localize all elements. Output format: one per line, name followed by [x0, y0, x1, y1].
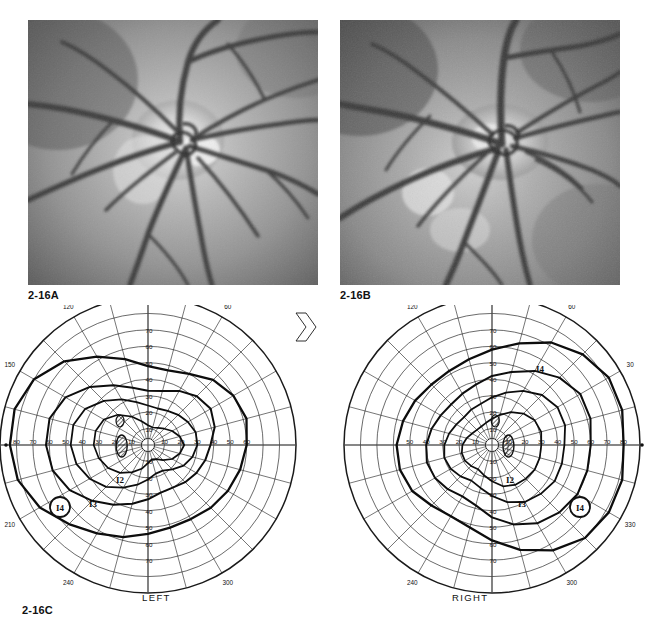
goldmann-perimetry-chart: 7060504030201010203040506070807060504030… — [0, 305, 648, 601]
svg-text:10: 10 — [128, 438, 135, 445]
svg-text:240: 240 — [63, 579, 74, 586]
svg-text:120: 120 — [407, 305, 418, 310]
svg-text:I4: I4 — [576, 503, 585, 513]
svg-text:70: 70 — [146, 557, 153, 564]
svg-text:50: 50 — [406, 438, 413, 445]
svg-text:40: 40 — [146, 508, 153, 515]
svg-text:240: 240 — [407, 579, 418, 586]
svg-text:10: 10 — [490, 458, 497, 465]
svg-text:70: 70 — [146, 327, 153, 334]
svg-text:210: 210 — [5, 521, 16, 528]
figure-label-a: 2-16A — [28, 289, 59, 301]
svg-text:40: 40 — [79, 438, 86, 445]
svg-text:I3: I3 — [89, 499, 98, 509]
svg-text:60: 60 — [568, 305, 576, 310]
svg-text:40: 40 — [554, 438, 561, 445]
svg-text:I2: I2 — [116, 475, 125, 485]
perimetry-left-eye: 7060504030201010203040506070807060504030… — [0, 305, 296, 601]
svg-text:20: 20 — [456, 438, 463, 445]
svg-text:300: 300 — [566, 579, 577, 586]
svg-text:20: 20 — [146, 409, 153, 416]
svg-text:50: 50 — [571, 438, 578, 445]
left-eye-caption: LEFT — [142, 592, 171, 603]
svg-text:50: 50 — [62, 438, 69, 445]
svg-text:60: 60 — [224, 305, 232, 310]
fundus-photo-b — [340, 20, 620, 285]
right-eye-caption: RIGHT — [452, 592, 489, 603]
figure-label-b: 2-16B — [340, 289, 371, 301]
svg-text:I4: I4 — [536, 364, 545, 374]
svg-text:70: 70 — [29, 438, 36, 445]
svg-text:50: 50 — [490, 360, 497, 367]
perimetry-right-eye: 7060504030201010203040506070504030201010… — [344, 305, 640, 601]
svg-text:30: 30 — [627, 361, 635, 368]
svg-text:I4: I4 — [56, 503, 65, 513]
svg-text:70: 70 — [490, 327, 497, 334]
figure-label-c: 2-16C — [22, 604, 53, 616]
svg-text:120: 120 — [63, 305, 74, 310]
svg-text:60: 60 — [146, 343, 153, 350]
svg-text:40: 40 — [146, 376, 153, 383]
fundus-photo-a — [28, 20, 318, 285]
svg-text:40: 40 — [490, 508, 497, 515]
svg-text:300: 300 — [222, 579, 233, 586]
svg-text:50: 50 — [227, 438, 234, 445]
svg-text:I2: I2 — [506, 475, 515, 485]
svg-text:10: 10 — [161, 438, 168, 445]
svg-text:50: 50 — [146, 524, 153, 531]
svg-text:330: 330 — [625, 521, 636, 528]
svg-text:50: 50 — [490, 524, 497, 531]
svg-text:70: 70 — [490, 557, 497, 564]
svg-text:70: 70 — [604, 438, 611, 445]
page-header-remnant — [8, 2, 308, 12]
svg-text:10: 10 — [472, 438, 479, 445]
svg-text:60: 60 — [146, 541, 153, 548]
svg-text:150: 150 — [5, 361, 16, 368]
svg-text:I3: I3 — [518, 499, 527, 509]
svg-text:30: 30 — [146, 393, 153, 400]
svg-text:80: 80 — [13, 438, 20, 445]
svg-text:30: 30 — [95, 438, 102, 445]
svg-text:20: 20 — [521, 438, 528, 445]
